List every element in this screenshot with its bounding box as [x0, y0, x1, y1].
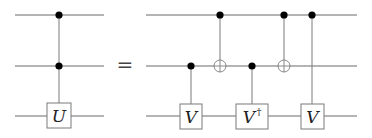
gate-label: U [52, 106, 67, 126]
control-dot-icon [216, 11, 223, 18]
control-dot-icon [55, 62, 62, 69]
gate-label: V [185, 107, 199, 127]
dagger-superscript: † [257, 106, 262, 117]
left-circuit: U [15, 11, 104, 128]
gate-controlled-v-dagger: V † [236, 62, 268, 129]
control-dot-icon [187, 62, 194, 69]
gate-label: V [306, 107, 320, 127]
equals-sign: = [117, 53, 134, 77]
right-circuit: V V † [146, 11, 357, 129]
circuit-diagram: U = V V † [0, 0, 372, 138]
gate-label: V [243, 107, 257, 127]
control-dot-icon [308, 11, 315, 18]
gate-controlled-v-1: V [180, 62, 202, 129]
gate-cnot-2 [278, 11, 290, 72]
gate-u: U [47, 103, 71, 128]
gate-cnot-1 [214, 11, 226, 72]
control-dot-icon [280, 11, 287, 18]
gate-controlled-v-2: V [301, 11, 324, 129]
control-dot-icon [55, 11, 62, 18]
control-dot-icon [248, 62, 255, 69]
